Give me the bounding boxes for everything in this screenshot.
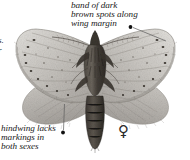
annotation-wing-margin-line3: wing margin <box>71 19 138 28</box>
annotation-left-fragment-line2: r <box>0 46 4 56</box>
annotation-hindwing-line3: both sexes <box>1 142 56 151</box>
annotation-hindwing: hindwing lacks markings in both sexes <box>1 124 56 152</box>
figure-panel: band of dark brown spots along wing marg… <box>0 0 190 160</box>
leader-line-wing-margin <box>133 28 166 42</box>
bullet-hindwing <box>61 131 65 135</box>
female-symbol: ♀ <box>118 124 129 139</box>
annotation-wing-margin: band of dark brown spots along wing marg… <box>71 1 138 29</box>
annotation-left-cropped-fragment: s. r <box>0 36 4 55</box>
leader-line-hindwing <box>64 104 65 130</box>
